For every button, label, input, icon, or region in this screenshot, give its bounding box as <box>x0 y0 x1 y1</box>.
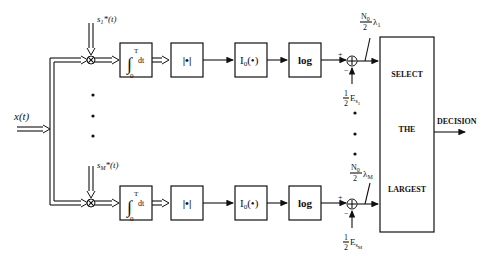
log-m-label: log <box>298 197 313 209</box>
ellipsis-dots <box>91 93 356 155</box>
svg-text:Es1: Es1 <box>350 93 361 106</box>
selector-line-3: LARGEST <box>388 185 427 194</box>
sum-1-minus-sign: − <box>344 66 349 75</box>
reference-signal-m-label: sM*(t) <box>97 160 119 171</box>
sum-m-plus-sign: + <box>338 193 343 202</box>
svg-text:EsM: EsM <box>350 237 363 250</box>
integral-upper-limit: T <box>134 47 139 55</box>
svg-text:λM: λM <box>363 169 373 180</box>
summer-1-icon <box>347 56 357 66</box>
integral-lower-limit: 0 <box>130 215 134 223</box>
svg-text:2: 2 <box>363 23 367 32</box>
log-1-label: log <box>298 54 313 66</box>
integral-body: dt <box>138 199 145 208</box>
svg-text:λ1: λ1 <box>373 17 380 28</box>
branch-1: s1*(t) ∫ T 0 dt |•| I0(•) log + <box>87 12 380 108</box>
selector-line-1: SELECT <box>391 70 423 79</box>
decision-output: DECISION <box>434 117 477 132</box>
input-label: x(t) <box>13 110 30 123</box>
bias-m-label: N0 2 λM <box>350 163 373 183</box>
svg-text:2: 2 <box>353 174 357 183</box>
energy-1-label: 1 2 Es1 <box>343 89 361 108</box>
summer-m-icon <box>347 199 357 209</box>
signal-bus <box>50 56 88 207</box>
input-signal: x(t) <box>13 110 50 133</box>
multiplier-m-icon <box>87 199 95 207</box>
energy-m-label: 1 2 EsM <box>343 233 363 252</box>
sum-1-plus-sign: + <box>338 50 343 59</box>
svg-text:1: 1 <box>344 233 348 242</box>
reference-signal-1-label: s1*(t) <box>97 14 117 25</box>
svg-text:2: 2 <box>344 243 348 252</box>
svg-text:2: 2 <box>344 99 348 108</box>
decision-label: DECISION <box>437 117 477 126</box>
magnitude-m-label: |•| <box>183 197 192 209</box>
bessel-m-label: I0(•) <box>240 197 259 211</box>
select-largest-block: SELECT THE LARGEST <box>380 37 434 232</box>
sum-m-minus-sign: − <box>344 209 349 218</box>
bessel-1-label: I0(•) <box>240 54 259 68</box>
integral-lower-limit: 0 <box>130 72 134 80</box>
selector-line-2: THE <box>399 125 416 134</box>
integral-upper-limit: T <box>134 190 139 198</box>
svg-text:N0: N0 <box>351 163 360 173</box>
input-arrow-icon <box>43 125 50 133</box>
branch-m: sM*(t) ∫ T 0 dt |•| I0(•) log + <box>87 160 378 252</box>
receiver-diagram: x(t) s1*(t) ∫ T <box>0 0 499 262</box>
integral-body: dt <box>138 56 145 65</box>
svg-text:N0: N0 <box>361 12 370 22</box>
multiplier-1-icon <box>87 56 95 64</box>
svg-text:1: 1 <box>344 89 348 98</box>
magnitude-1-label: |•| <box>183 54 192 66</box>
bias-1-label: N0 2 λ1 <box>360 12 380 32</box>
